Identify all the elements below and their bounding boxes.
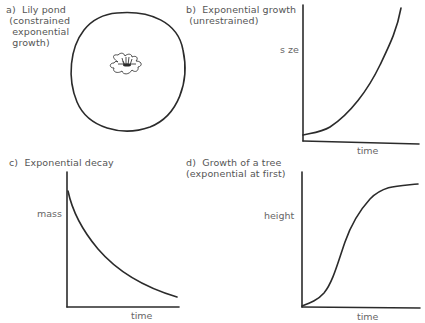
panel-b-growth-curve [303,8,401,135]
panel-b-x-axis [303,141,419,144]
panel-d-chart [302,172,420,308]
pond-outline [71,13,185,131]
lily-flower-icon [110,53,141,74]
diagram-canvas [0,0,425,323]
panel-d-sigmoid-curve [302,184,418,306]
panel-b-chart [303,5,419,144]
panel-c-decay-curve [68,191,177,297]
panel-d-x-axis [302,307,420,308]
panel-c-chart [67,172,179,307]
